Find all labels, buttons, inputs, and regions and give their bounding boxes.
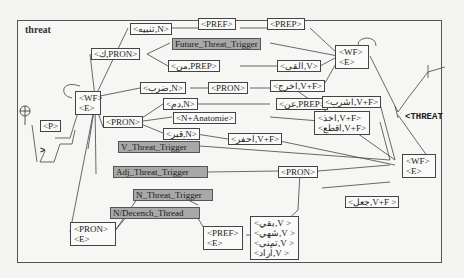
- node-pron-e[interactable]: <PRON> <E>: [70, 222, 116, 246]
- node-wf-mid[interactable]: <WF> <E>: [335, 45, 369, 69]
- node-adj-threat-trigger[interactable]: Adj_Threat_Trigger: [113, 166, 208, 178]
- node-n-threat-trigger[interactable]: N_Threat_Trigger: [133, 189, 213, 201]
- node-v-threat-trigger[interactable]: V_Threat_Trigger: [118, 141, 200, 153]
- node-wf-start[interactable]: <WF> <E>: [75, 91, 101, 115]
- node-n-dam[interactable]: <دم,N>: [163, 98, 198, 110]
- node-n-top[interactable]: <تنبيه,N>: [130, 23, 172, 35]
- node-n-qabr[interactable]: <قبر,N>: [163, 128, 200, 140]
- node-v-alqa[interactable]: <القى,V>: [277, 60, 321, 72]
- node-n-anatomie[interactable]: <N+Anatomie>: [173, 112, 236, 124]
- node-v-jaal[interactable]: <جعل,V+F >: [345, 196, 399, 208]
- output-threat-label: <THREAT: [405, 112, 443, 122]
- node-v-list[interactable]: <بقي,V > <شهي,V > <تمنى,V > <أراد,V >: [250, 216, 299, 260]
- node-v-akhaz-qata[interactable]: <اخذ,V+F> <اقطع,V+F>: [314, 111, 370, 135]
- initial-state-icon: [19, 104, 31, 126]
- node-future-threat-trigger[interactable]: Future_Threat_Trigger: [172, 38, 261, 50]
- graph-title: threat: [25, 24, 51, 35]
- node-pref-e[interactable]: <PREF> <E>: [203, 226, 243, 250]
- node-pron-right[interactable]: <PRON>: [278, 166, 318, 178]
- node-prep-2[interactable]: <PREP>: [267, 18, 305, 30]
- node-v-hafr[interactable]: <احفر,V+F>: [228, 133, 282, 145]
- node-v-xarj[interactable]: <اخرج,V+F>: [270, 80, 325, 92]
- node-n-darb[interactable]: <ضرب,N>: [140, 82, 186, 94]
- arrow-gt-icon: >: [40, 145, 45, 155]
- node-prep-min[interactable]: <من,PREP>: [168, 60, 220, 72]
- node-pron-mid[interactable]: <PRON>: [208, 82, 248, 94]
- node-prep-an[interactable]: <عن,PREP>: [276, 98, 328, 110]
- node-n-decench-thread[interactable]: N/Decench_Thread: [110, 207, 200, 219]
- node-wf-end[interactable]: <WF> <E>: [402, 154, 436, 178]
- node-v-sharb[interactable]: <اشرب,V+F>: [322, 96, 381, 108]
- node-p[interactable]: <P>: [40, 120, 61, 132]
- node-pron-main[interactable]: <PRON>: [103, 116, 143, 128]
- node-pron-top[interactable]: <ك,PRON>: [91, 48, 140, 60]
- node-pref-1[interactable]: <PREF>: [198, 18, 236, 30]
